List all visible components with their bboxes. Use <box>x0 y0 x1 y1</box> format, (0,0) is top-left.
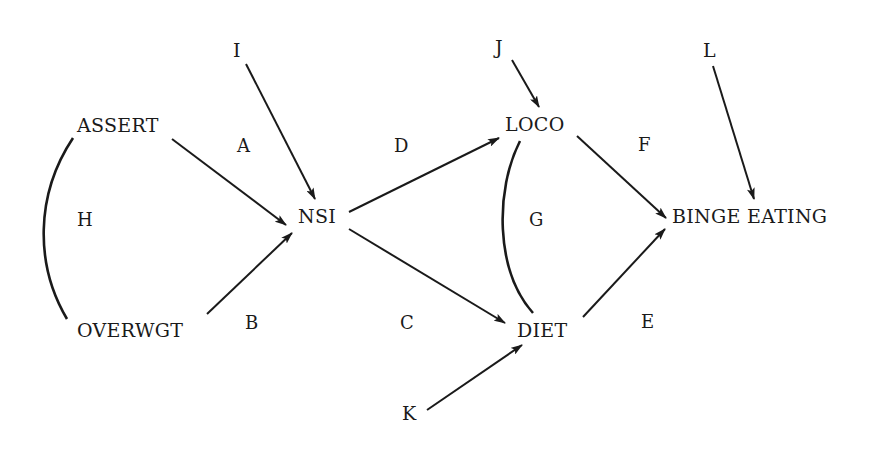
node-loco: LOCO <box>505 113 565 135</box>
edge-assert-nsi <box>172 139 286 225</box>
path-label-d: D <box>394 135 408 156</box>
edge-nsi-loco <box>349 138 499 212</box>
diagram-svg: ASSERT OVERWGT NSI LOCO DIET BINGE EATIN… <box>0 0 886 450</box>
path-label-h: H <box>77 209 93 230</box>
edge-i-nsi <box>246 64 315 199</box>
path-label-e: E <box>641 311 654 332</box>
edge-overwgt-nsi <box>207 233 292 314</box>
path-label-g: G <box>529 209 543 230</box>
edge-k-diet <box>427 345 522 410</box>
path-diagram: ASSERT OVERWGT NSI LOCO DIET BINGE EATIN… <box>0 0 886 450</box>
node-overwgt: OVERWGT <box>77 319 183 341</box>
disturbance-j: J <box>493 36 503 58</box>
path-label-a: A <box>236 135 251 156</box>
disturbance-k: K <box>402 402 417 424</box>
correlation-curve-h <box>44 138 73 319</box>
node-binge-eating: BINGE EATING <box>672 205 827 227</box>
edge-loco-binge <box>577 136 666 218</box>
path-label-c: C <box>400 312 414 333</box>
edge-l-binge <box>713 66 754 199</box>
node-assert: ASSERT <box>76 114 159 136</box>
path-label-b: B <box>245 312 258 333</box>
disturbance-i: I <box>233 39 241 61</box>
edge-diet-binge <box>583 229 665 317</box>
edge-j-loco <box>512 60 539 107</box>
disturbance-l: L <box>703 39 716 61</box>
node-diet: DIET <box>517 319 568 341</box>
node-nsi: NSI <box>298 205 336 227</box>
edge-nsi-diet <box>349 229 505 323</box>
path-label-f: F <box>638 134 651 155</box>
